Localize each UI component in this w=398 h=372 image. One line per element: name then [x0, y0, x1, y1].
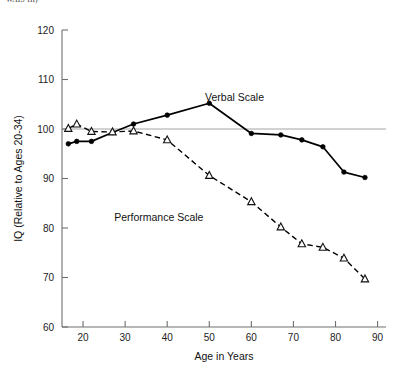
x-tick-label-50: 50 [204, 332, 216, 343]
data-point [66, 142, 71, 147]
data-point [298, 240, 305, 247]
y-tick-label-100: 100 [37, 124, 54, 135]
chart-figure: WAIS-III) 607080901001101202030405060708… [0, 0, 398, 372]
data-point [131, 122, 136, 127]
y-tick-label-60: 60 [43, 322, 55, 333]
x-tick-label-20: 20 [77, 332, 89, 343]
data-point [74, 139, 79, 144]
x-tick-label-30: 30 [120, 332, 132, 343]
series-line-verbal-scale [68, 103, 365, 177]
data-point [300, 138, 305, 143]
x-tick-label-60: 60 [246, 332, 258, 343]
y-tick-label-110: 110 [38, 74, 54, 85]
y-tick-label-90: 90 [43, 173, 55, 184]
data-point [248, 198, 255, 205]
data-point [342, 170, 347, 175]
data-point [65, 125, 72, 132]
data-point [73, 120, 80, 127]
data-point [321, 145, 326, 150]
series-label-performance-scale: Performance Scale [114, 211, 203, 223]
data-point [279, 133, 284, 138]
data-point [363, 175, 368, 180]
data-point [165, 113, 170, 118]
y-axis-title: IQ (Relative to Ages 20-34) [12, 115, 24, 242]
y-tick-label-120: 120 [37, 25, 54, 36]
x-tick-label-40: 40 [162, 332, 174, 343]
plot-area: 607080901001101202030405060708090Age in … [12, 25, 386, 362]
y-tick-label-80: 80 [43, 223, 55, 234]
clipped-top-caption: WAIS-III) [6, 0, 38, 4]
y-tick-label-70: 70 [43, 272, 55, 283]
x-tick-label-90: 90 [372, 332, 384, 343]
x-tick-label-70: 70 [288, 332, 300, 343]
data-point [89, 139, 94, 144]
x-tick-label-80: 80 [330, 332, 342, 343]
data-point [249, 131, 254, 136]
iq-by-age-line-chart: 607080901001101202030405060708090Age in … [0, 0, 398, 372]
data-point [277, 223, 284, 230]
series-label-verbal-scale: Verbal Scale [205, 91, 264, 103]
x-axis-title: Age in Years [195, 350, 254, 362]
